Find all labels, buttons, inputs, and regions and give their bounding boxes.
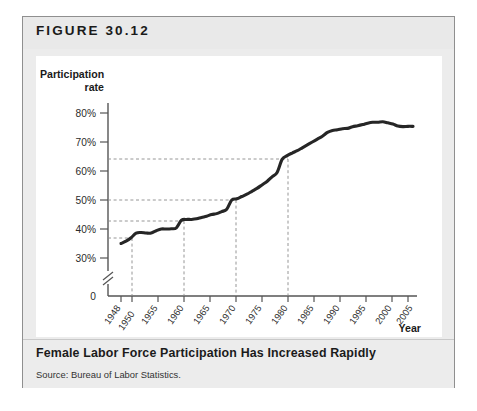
figure-caption-title: Female Labor Force Participation Has Inc… xyxy=(36,346,376,360)
y-tick-label-40: 40% xyxy=(76,224,96,235)
figure-container: FIGURE 30.12 80% 70% 60% 50% 40% 30% xyxy=(22,16,455,388)
x-tick-label-1955: 1955 xyxy=(139,303,160,326)
x-tick-label-1990: 1990 xyxy=(321,303,342,326)
chart-panel: 80% 70% 60% 50% 40% 30% 0 Participation … xyxy=(36,56,442,337)
x-tick-label-1975: 1975 xyxy=(243,303,264,326)
y-tick-label-50: 50% xyxy=(76,195,96,206)
y-tick-label-70: 70% xyxy=(76,137,96,148)
y-axis-zero-label: 0 xyxy=(90,291,96,302)
y-tick-label-60: 60% xyxy=(76,166,96,177)
x-axis-group: 1948 1950 1955 1960 1965 1970 1975 1980 … xyxy=(102,296,421,334)
y-axis-title-line2: rate xyxy=(85,81,105,93)
x-tick-label-1970: 1970 xyxy=(217,303,238,326)
x-tick-label-1995: 1995 xyxy=(347,303,368,326)
participation-rate-curve xyxy=(121,122,413,244)
x-tick-label-1985: 1985 xyxy=(295,303,316,326)
y-axis-group: 80% 70% 60% 50% 40% 30% 0 Participation … xyxy=(40,68,113,302)
figure-label: FIGURE 30.12 xyxy=(36,23,150,38)
line-chart: 80% 70% 60% 50% 40% 30% 0 Participation … xyxy=(36,56,442,337)
x-tick-label-1960: 1960 xyxy=(165,303,186,326)
figure-source: Source: Bureau of Labor Statistics. xyxy=(36,369,181,380)
guide-lines-group xyxy=(108,159,288,296)
y-tick-label-30: 30% xyxy=(76,253,96,264)
x-tick-label-2000: 2000 xyxy=(373,303,394,326)
x-tick-label-1965: 1965 xyxy=(191,303,212,326)
caption-band: Female Labor Force Participation Has Inc… xyxy=(23,339,454,388)
y-axis-title-line1: Participation xyxy=(40,68,104,80)
x-axis-title: Year xyxy=(399,322,421,334)
caption-divider xyxy=(23,339,454,340)
figure-header-band: FIGURE 30.12 xyxy=(23,17,454,49)
y-tick-label-80: 80% xyxy=(76,108,96,119)
x-tick-label-1980: 1980 xyxy=(269,303,290,326)
